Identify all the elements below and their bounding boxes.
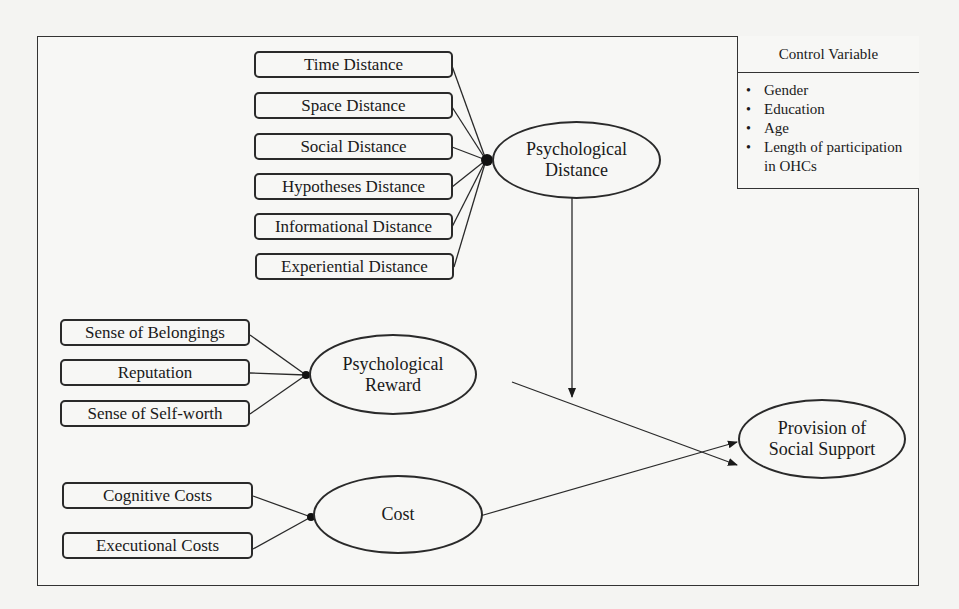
- control-variable-title: Control Variable: [738, 36, 919, 73]
- indicator-cognitive-costs: Cognitive Costs: [62, 482, 253, 509]
- construct-label: Social Support: [769, 439, 876, 460]
- control-variable-item: Gender: [738, 81, 919, 100]
- control-variable-list: Gender Education Age Length of participa…: [738, 73, 919, 176]
- control-variable-item: Education: [738, 100, 919, 119]
- construct-label: Psychological: [526, 139, 627, 160]
- indicator-reputation: Reputation: [60, 359, 250, 386]
- indicator-sense-of-self-worth: Sense of Self-worth: [60, 400, 250, 427]
- indicator-informational-distance: Informational Distance: [254, 213, 453, 240]
- indicator-executional-costs: Executional Costs: [62, 532, 253, 559]
- indicator-hypotheses-distance: Hypotheses Distance: [254, 173, 453, 200]
- control-variable-item: Age: [738, 119, 919, 138]
- construct-cost: Cost: [313, 475, 483, 554]
- control-variable-item-line: in OHCs: [764, 158, 817, 174]
- construct-psychological-reward: Psychological Reward: [309, 334, 477, 415]
- construct-label: Distance: [545, 160, 608, 181]
- construct-provision-of-social-support: Provision of Social Support: [738, 399, 906, 479]
- construct-label: Cost: [381, 504, 414, 525]
- control-variable-item-line: Length of participation: [764, 139, 902, 155]
- construct-psychological-distance: Psychological Distance: [492, 121, 661, 199]
- indicator-space-distance: Space Distance: [254, 92, 453, 119]
- indicator-time-distance: Time Distance: [254, 51, 453, 78]
- control-variable-item: Length of participation in OHCs: [738, 138, 919, 176]
- control-variable-panel: Control Variable Gender Education Age Le…: [737, 36, 919, 189]
- indicator-social-distance: Social Distance: [254, 133, 453, 160]
- indicator-sense-of-belongings: Sense of Belongings: [60, 319, 250, 346]
- indicator-experiential-distance: Experiential Distance: [255, 253, 454, 280]
- construct-label: Reward: [365, 375, 421, 396]
- construct-label: Provision of: [778, 418, 867, 439]
- construct-label: Psychological: [343, 354, 444, 375]
